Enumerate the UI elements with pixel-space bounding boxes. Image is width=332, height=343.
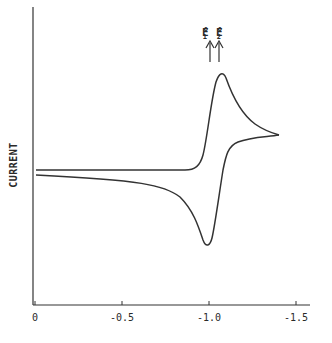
e1-sub: 1 [203,33,207,41]
e2-sup: o [218,25,222,33]
e2-annotation: Eo2 [216,26,221,39]
cyclic-voltammogram [0,0,332,343]
e2-arrow-icon [215,41,223,62]
reverse-scan-curve [36,135,279,245]
x-tick-label-0.5: -0.5 [110,312,134,323]
e1-annotation: Eo1 [202,26,207,39]
e1-sup: o [204,25,208,33]
e1-arrow-icon [206,41,214,62]
x-tick-label-0: 0 [32,312,38,323]
e2-sub: 2 [217,33,221,41]
y-axis-label: CURRENT [8,142,19,188]
x-tick-label-1.5: -1.5 [284,312,308,323]
forward-scan-curve [36,74,279,170]
x-tick-label-1.0: -1.0 [197,312,221,323]
